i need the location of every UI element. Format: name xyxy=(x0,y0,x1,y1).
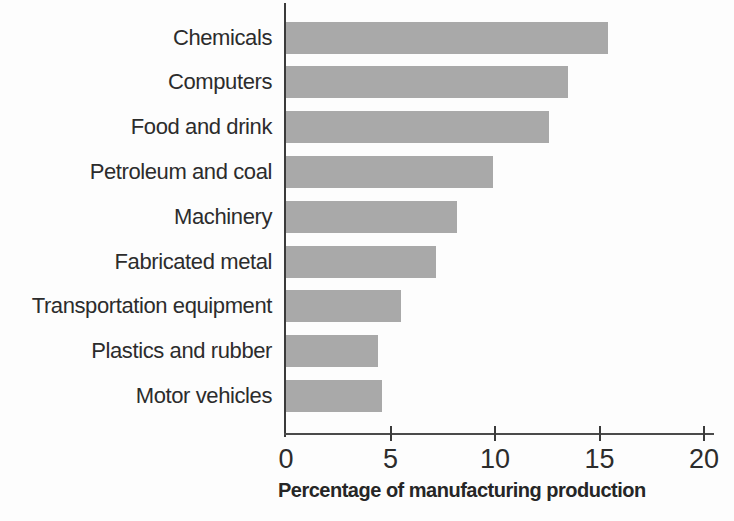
x-tick-label: 5 xyxy=(383,444,398,475)
bar xyxy=(286,335,378,367)
x-tick-mark xyxy=(390,426,392,441)
x-axis-title: Percentage of manufacturing production xyxy=(278,479,646,502)
x-axis-line xyxy=(284,433,714,435)
bar xyxy=(286,22,608,54)
x-tick-label: 20 xyxy=(689,444,719,475)
bar xyxy=(286,111,549,143)
category-label: Food and drink xyxy=(131,114,272,140)
category-label: Chemicals xyxy=(173,25,272,51)
bar-chart: ChemicalsComputersFood and drinkPetroleu… xyxy=(0,0,734,521)
category-label: Machinery xyxy=(174,204,272,230)
bar xyxy=(286,66,568,98)
y-axis-line xyxy=(284,3,286,437)
category-label: Computers xyxy=(168,69,272,95)
category-label: Transportation equipment xyxy=(32,293,272,319)
x-tick-mark xyxy=(703,426,705,441)
category-label: Plastics and rubber xyxy=(91,338,272,364)
category-label: Fabricated metal xyxy=(115,249,272,275)
bar xyxy=(286,156,493,188)
x-tick-mark xyxy=(494,426,496,441)
category-label: Motor vehicles xyxy=(136,383,272,409)
x-tick-label: 10 xyxy=(480,444,510,475)
x-tick-label: 0 xyxy=(278,444,293,475)
category-label: Petroleum and coal xyxy=(90,159,272,185)
x-tick-label: 15 xyxy=(584,444,614,475)
x-tick-mark xyxy=(599,426,601,441)
bar xyxy=(286,380,382,412)
bar xyxy=(286,246,436,278)
bar xyxy=(286,290,401,322)
bar xyxy=(286,201,457,233)
